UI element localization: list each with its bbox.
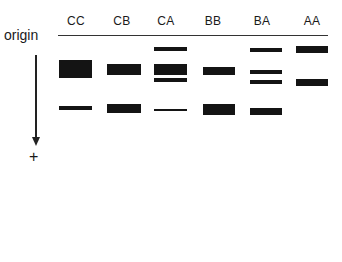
lane-label-ca: CA <box>146 14 186 28</box>
origin-line <box>58 35 328 36</box>
migration-arrow-shaft <box>35 55 37 139</box>
band-bb-2 <box>203 104 235 115</box>
origin-label: origin <box>4 27 38 43</box>
arrow-down-icon <box>32 137 40 146</box>
lane-label-ba: BA <box>242 14 282 28</box>
band-ca-3 <box>154 78 187 82</box>
band-aa-2 <box>296 79 328 86</box>
positive-electrode-label: + <box>29 149 38 165</box>
lane-label-aa: AA <box>292 14 332 28</box>
band-ba-1 <box>250 48 282 52</box>
band-ca-1 <box>154 47 187 51</box>
band-ba-3 <box>250 80 282 84</box>
band-cb-2 <box>107 104 141 113</box>
band-ba-4 <box>250 108 282 115</box>
band-aa-1 <box>296 46 328 53</box>
band-ca-2 <box>154 64 187 75</box>
band-ca-4 <box>154 109 187 111</box>
band-cc-2 <box>59 106 92 110</box>
band-cb-1 <box>107 64 141 75</box>
band-ba-2 <box>250 70 282 74</box>
lane-label-cb: CB <box>102 14 142 28</box>
lane-label-cc: CC <box>56 14 96 28</box>
band-cc-1 <box>59 60 92 78</box>
band-bb-1 <box>203 67 235 75</box>
lane-label-bb: BB <box>193 14 233 28</box>
